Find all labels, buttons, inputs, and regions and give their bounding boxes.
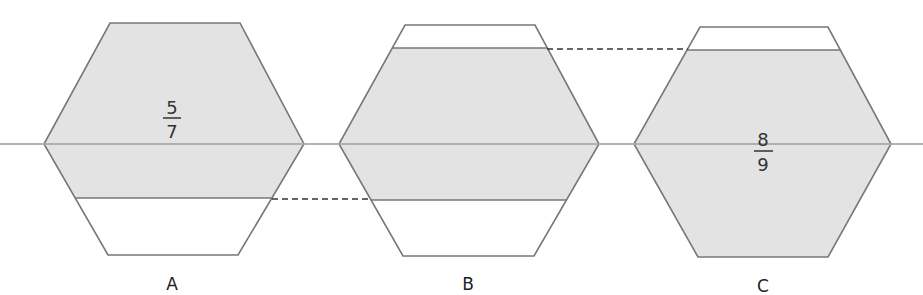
hexagon-fraction-diagram: 5 7 8 9 A B C — [0, 0, 923, 295]
fraction-a-numerator: 5 — [166, 97, 177, 118]
label-b: B — [462, 274, 474, 294]
fraction-c-denominator: 9 — [757, 154, 768, 175]
label-a: A — [166, 274, 178, 294]
fraction-c-numerator: 8 — [757, 129, 768, 150]
fraction-a-denominator: 7 — [166, 121, 177, 142]
label-c: C — [757, 276, 769, 295]
